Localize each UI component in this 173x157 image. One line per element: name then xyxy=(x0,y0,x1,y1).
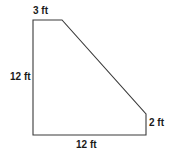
dimension-label-left: 12 ft xyxy=(10,71,31,82)
geometry-figure-canvas: 3 ft 12 ft 12 ft 2 ft xyxy=(0,0,173,157)
dimension-label-right: 2 ft xyxy=(149,117,164,128)
quadrilateral-outline xyxy=(33,20,146,135)
dimension-label-top: 3 ft xyxy=(33,5,48,16)
dimension-label-bottom: 12 ft xyxy=(76,139,97,150)
